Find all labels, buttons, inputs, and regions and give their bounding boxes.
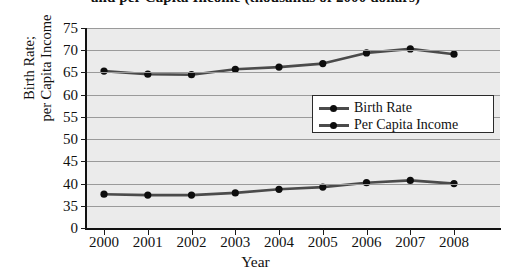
x-tick-label-2008: 2008: [424, 234, 484, 251]
y-tick-mark: [81, 206, 87, 207]
gridline: [86, 161, 500, 162]
data-point: [319, 60, 326, 67]
gridline: [86, 28, 500, 29]
data-point: [275, 64, 282, 71]
gridline: [86, 184, 500, 185]
y-tick-mark: [81, 72, 87, 73]
gridline: [86, 72, 500, 73]
y-tick-label-50: 50: [44, 132, 78, 147]
data-point: [275, 186, 282, 193]
chart-title: and per Capita Income (thousands of 2000…: [91, 0, 420, 6]
y-tick-label-40: 40: [44, 176, 78, 191]
y-tick-label-70: 70: [44, 43, 78, 58]
y-tick-label-55: 55: [44, 109, 78, 124]
data-point: [450, 51, 457, 58]
gridline: [86, 50, 500, 51]
y-tick-label-45: 45: [44, 154, 78, 169]
data-point: [144, 192, 151, 199]
series-line-per-capita-income: [104, 49, 454, 75]
y-axis-title-line1: Birth Rate;: [21, 36, 38, 100]
y-tick-mark: [81, 95, 87, 96]
data-point: [100, 191, 107, 198]
legend-marker-icon: [319, 103, 349, 113]
legend-marker-icon: [319, 120, 349, 130]
legend-item-per-capita-income: Per Capita Income: [319, 117, 487, 133]
legend-label: Per Capita Income: [354, 117, 458, 133]
y-tick-mark: [81, 161, 87, 162]
y-tick-mark: [81, 228, 87, 229]
y-tick-mark: [81, 117, 87, 118]
y-tick-mark: [81, 139, 87, 140]
y-tick-label-65: 65: [44, 65, 78, 80]
gridline: [86, 206, 500, 207]
y-tick-mark: [81, 184, 87, 185]
y-tick-mark: [81, 28, 87, 29]
legend-item-birth-rate: Birth Rate: [319, 100, 487, 116]
y-tick-label-0: 0: [44, 221, 78, 236]
data-point: [319, 184, 326, 191]
data-point: [407, 45, 414, 52]
gridline: [86, 139, 500, 140]
data-point: [100, 68, 107, 75]
x-axis-title: Year: [0, 253, 511, 271]
legend-label: Birth Rate: [354, 100, 412, 116]
y-tick-label-35: 35: [44, 198, 78, 213]
y-tick-label-75: 75: [44, 21, 78, 36]
data-point: [232, 189, 239, 196]
y-tick-mark: [81, 50, 87, 51]
chart-legend: Birth RatePer Capita Income: [312, 95, 494, 133]
chart-figure: and per Capita Income (thousands of 2000…: [0, 0, 511, 277]
y-axis-tick-labels: 7570656055504540350: [44, 0, 78, 277]
y-tick-label-60: 60: [44, 87, 78, 102]
data-point: [188, 192, 195, 199]
